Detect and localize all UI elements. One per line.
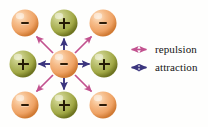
legend-label-repulsion: repulsion [155,43,197,55]
legend-item-attraction: attraction [128,61,198,73]
repulsion-double-arrow-icon [128,45,150,54]
legend-label-attraction: attraction [155,61,198,73]
force-diagram: repulsion attraction [0,0,208,127]
attraction-double-arrow-icon [128,63,150,72]
legend-item-repulsion: repulsion [128,43,197,55]
legend: repulsion attraction [0,0,208,127]
